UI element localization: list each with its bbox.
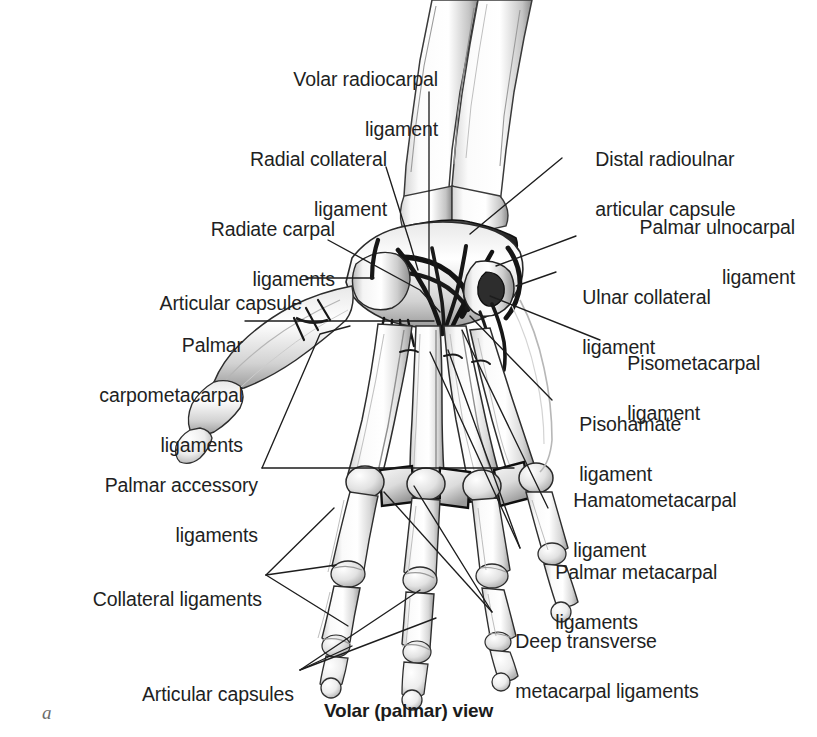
anatomical-figure-volar-palmar-view: Volar radiocarpal ligament Radial collat… — [0, 0, 817, 737]
label-line: Radiate carpal — [211, 218, 335, 240]
label-line: ligaments — [175, 524, 258, 546]
label-line: Distal radioulnar — [595, 148, 734, 170]
deep-transverse-metacarpal-ligaments — [380, 462, 530, 508]
label-line: Deep transverse — [515, 630, 657, 652]
label-line: Pisometacarpal — [627, 352, 760, 374]
label-line: Palmar accessory — [105, 474, 258, 496]
label-line: Collateral ligaments — [93, 588, 262, 610]
label-line: Ulnar collateral — [582, 286, 710, 308]
label-line: Hamatometacarpal — [573, 489, 736, 511]
label-line: metacarpal ligaments — [515, 680, 698, 702]
label-line: Volar radiocarpal — [293, 68, 438, 90]
middle-finger — [402, 498, 440, 710]
figure-caption: Volar (palmar) view — [0, 700, 817, 722]
label-line: Palmar metacarpal — [555, 561, 717, 583]
label-line: Palmar ulnocarpal — [640, 216, 795, 238]
label-line: carpometacarpal — [99, 384, 243, 406]
label-collateral-ligaments: Collateral ligaments — [32, 562, 262, 637]
label-line: Radial collateral — [250, 148, 387, 170]
label-line: Pisohamate — [579, 413, 681, 435]
index-finger — [318, 492, 378, 698]
label-palmar-accessory-ligaments: Palmar accessory ligaments — [50, 448, 258, 573]
label-line: Palmar — [182, 334, 243, 356]
